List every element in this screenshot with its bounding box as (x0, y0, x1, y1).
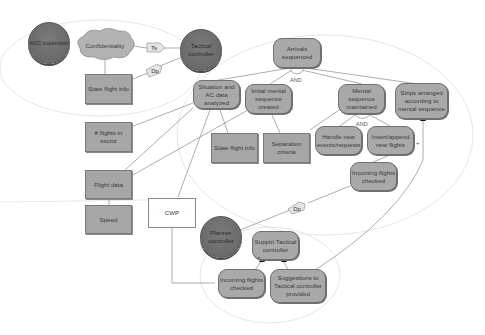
link-mental-handle (340, 115, 355, 126)
link-incoming-dp (308, 186, 350, 203)
goal-label: Strips arranged according to mental sequ… (396, 89, 447, 113)
resource-label: Separation criteria (264, 140, 309, 156)
goal-label: Suppirt Tactical controller (253, 238, 298, 254)
link-insert-incoming (373, 155, 390, 162)
link-arr-mental (302, 70, 362, 84)
contribution-plus-1: + (416, 140, 420, 146)
goal-incoming-flights-checked-tc[interactable]: Incoming flights checked (350, 162, 397, 191)
goal-handle-new-events[interactable]: Handle new events/requests (315, 126, 362, 155)
actor-acc-supervisor[interactable]: ACC supervisor (28, 22, 70, 64)
goal-label: Insert/append new flights (368, 133, 413, 149)
link-mental-insert (370, 115, 390, 126)
resource-cwp[interactable]: CWP (148, 198, 196, 228)
contribution-plus-2: + (257, 254, 261, 260)
dependency-tag-ts[interactable]: Ts (147, 43, 161, 52)
link-state-dp (133, 73, 148, 79)
and-arc-1 (290, 70, 304, 74)
goal-label: Suggestions to Tactical controller provi… (271, 274, 325, 298)
and-label-2: AND (356, 121, 368, 127)
actor-label: ACC supervisor (30, 39, 69, 47)
goal-label: Handle new events/requests (316, 133, 361, 149)
link-cwp-sit (178, 110, 210, 197)
dependency-tag-dp-1[interactable]: Dp (148, 66, 162, 75)
goal-label: Mental sequence maintained (339, 87, 384, 111)
goal-label: Incoming flights checked (219, 276, 264, 292)
goal-insert-new-flights[interactable]: Insert/append new flights (367, 126, 414, 155)
link-flights-sit (131, 103, 193, 127)
tag-label: Ts (151, 45, 157, 51)
goal-label: Initial mental sequence created (246, 87, 291, 111)
goal-arrivals-sequenced[interactable]: Arrivals sequenced (273, 38, 321, 68)
link-flightdata-sit (125, 108, 193, 170)
tag-label: Dp (293, 206, 301, 212)
goal-mental-sequence-maintained[interactable]: Mental sequence maintained (338, 84, 385, 114)
actor-planner-controller[interactable]: Planner controller (200, 216, 242, 258)
actor-label: Tactical controller (181, 42, 221, 58)
link-conf-ts (133, 46, 147, 48)
resource-state-flight-info-mid[interactable]: State flight info (211, 133, 258, 163)
resource-label: State flight info (214, 144, 255, 152)
goal-label: Situation and AC data analyzed (194, 83, 239, 107)
link-arr-init (270, 70, 292, 84)
link-sep-init (272, 115, 280, 133)
goal-incoming-flights-checked-pc[interactable]: Incoming flights checked (218, 269, 265, 298)
dependency-tag-dp-2[interactable]: Dp (290, 204, 304, 213)
resource-flights-in-sector[interactable]: # flights in sector (85, 122, 132, 152)
resource-state-flight-info-top[interactable]: State flight info (85, 74, 132, 104)
tag-label: Dp (151, 68, 159, 74)
resource-speed[interactable]: Speed (85, 205, 132, 234)
resource-flight-data[interactable]: Flight data (85, 170, 132, 199)
softgoal-label: Confidentiality (86, 42, 125, 50)
goal-label: Incoming flights checked (351, 169, 396, 185)
link-arr-strips (306, 68, 418, 84)
and-label-1: AND (290, 77, 302, 83)
goal-strips-arranged[interactable]: Strips arranged according to mental sequ… (395, 83, 448, 119)
link-state-sit (220, 110, 228, 133)
horizontal-divider (0, 200, 150, 202)
resource-label: # flights in sector (86, 129, 131, 145)
resource-label: Flight data (94, 181, 123, 189)
goal-label: Arrivals sequenced (274, 45, 320, 61)
resource-separation-criteria[interactable]: Separation criteria (263, 133, 310, 163)
goal-situation-analyzed[interactable]: Situation and AC data analyzed (193, 80, 240, 109)
actor-label: Planner controller (201, 229, 241, 245)
goal-suggestions-provided[interactable]: Suggestions to Tactical controller provi… (270, 269, 326, 303)
goal-initial-sequence-created[interactable]: Initial mental sequence created (245, 84, 292, 114)
and-arc-2 (355, 115, 370, 119)
softgoal-confidentiality[interactable]: Confidentiality (80, 38, 130, 54)
resource-label: State flight info (88, 85, 129, 93)
resource-label: CWP (165, 209, 179, 217)
actor-tactical-controller[interactable]: Tactical controller (180, 29, 222, 71)
resource-label: Speed (100, 216, 118, 224)
